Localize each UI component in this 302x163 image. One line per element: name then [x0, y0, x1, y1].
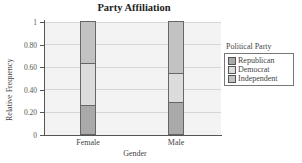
y-tick-label: 0	[33, 131, 37, 140]
y-tick	[40, 22, 44, 23]
bar-segment-republican	[168, 102, 184, 135]
legend: Republican Democrat Independent	[224, 53, 294, 86]
gridline	[44, 89, 221, 90]
y-tick	[40, 112, 44, 113]
bar-segment-independent	[168, 21, 184, 74]
y-tick-label: 1	[33, 18, 37, 27]
gridline	[44, 67, 221, 68]
bar-male	[168, 22, 184, 135]
y-tick	[40, 45, 44, 46]
y-tick-label: 0.20	[24, 108, 37, 117]
gridline	[44, 112, 221, 113]
x-tick-label-male: Male	[156, 138, 196, 147]
plot-area	[44, 22, 221, 135]
gridline	[44, 22, 221, 23]
legend-item-republican: Republican	[228, 56, 274, 65]
x-axis-title: Gender	[110, 149, 160, 158]
y-tick-label: 0.60	[24, 63, 37, 72]
legend-swatch	[228, 66, 236, 74]
x-tick-label-female: Female	[68, 138, 108, 147]
y-tick	[40, 67, 44, 68]
bar-female	[80, 22, 96, 135]
bar-segment-republican	[80, 105, 96, 135]
bar-segment-independent	[80, 21, 96, 64]
y-tick-label: 0.40	[24, 85, 37, 94]
y-tick	[40, 90, 44, 91]
y-axis	[44, 20, 45, 135]
y-tick	[40, 135, 44, 136]
bar-segment-democrat	[168, 73, 184, 103]
gridline	[44, 44, 221, 45]
chart-title: Party Affiliation	[0, 2, 268, 13]
legend-swatch	[228, 75, 236, 83]
legend-swatch	[228, 57, 236, 65]
y-axis-title: Relative Frequency	[5, 71, 14, 85]
bar-segment-democrat	[80, 63, 96, 106]
y-tick-label: 0.80	[24, 40, 37, 49]
x-axis	[44, 135, 222, 136]
legend-item-democrat: Democrat	[228, 65, 270, 74]
legend-title: Political Party	[226, 42, 272, 51]
legend-item-independent: Independent	[228, 74, 278, 83]
